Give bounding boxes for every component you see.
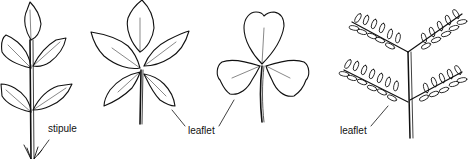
pinnate-leaf-figure — [1, 2, 72, 159]
palmate-leaf-figure — [91, 0, 189, 126]
leaf-diagram: stipule leaflet leaflet — [0, 0, 472, 159]
bipinnate-leaf-figure — [339, 9, 468, 138]
leaflet-label-bipinnate: leaflet — [340, 125, 367, 136]
stipule-label: stipule — [48, 123, 77, 134]
trifoliate-leaf-figure — [217, 12, 309, 126]
leaflet-label-palmate: leaflet — [188, 125, 215, 136]
